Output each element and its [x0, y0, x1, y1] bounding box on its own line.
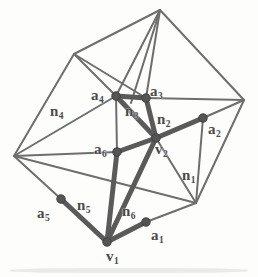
vertex-dot-a5: [57, 195, 65, 203]
mesh-edge: [74, 10, 160, 54]
vertex-dot-v1: [103, 238, 111, 246]
label-subscript: 4: [59, 111, 64, 121]
label-subscript: 3: [158, 91, 163, 101]
label-base: n: [125, 103, 133, 119]
normal-label-n4: n4: [50, 104, 63, 119]
vertex-label-a5: a5: [37, 206, 49, 221]
vertex-dot-a6: [113, 148, 121, 156]
label-base: n: [157, 111, 165, 127]
label-base: a: [208, 121, 216, 137]
label-subscript: 5: [45, 213, 50, 223]
mesh-edge: [14, 156, 196, 203]
vertex-label-v2: v2: [155, 142, 167, 157]
label-base: v: [106, 248, 114, 264]
vertex-label-a1: a1: [151, 228, 163, 243]
vertex-label-a2: a2: [208, 122, 220, 137]
label-base: n: [182, 167, 190, 183]
normal-label-n3: n3: [125, 104, 138, 119]
label-base: a: [37, 205, 45, 221]
label-subscript: 5: [86, 205, 91, 215]
label-subscript: 2: [216, 129, 221, 139]
label-base: n: [50, 103, 58, 119]
vertex-label-a3: a3: [150, 84, 162, 99]
vertex-dot-a4: [112, 92, 120, 100]
label-subscript: 3: [134, 111, 139, 121]
scan-artifact: [10, 268, 248, 273]
label-subscript: 2: [166, 119, 171, 129]
label-base: a: [94, 141, 102, 157]
mesh-edge: [160, 10, 244, 100]
label-base: n: [77, 197, 85, 213]
vertex-dot-a3: [142, 94, 150, 102]
mesh-edge: [14, 54, 74, 156]
vertex-label-v1: v1: [106, 249, 118, 264]
vertex-label-a6: a6: [94, 142, 106, 157]
normal-label-n2: n2: [157, 112, 170, 127]
label-base: a: [151, 227, 159, 243]
label-subscript: 1: [191, 175, 196, 185]
vertex-dot-a1: [142, 218, 150, 226]
normal-label-n6: n6: [122, 204, 135, 219]
vertex-dot-a2: [199, 114, 207, 122]
label-base: a: [150, 83, 158, 99]
label-subscript: 2: [163, 149, 168, 159]
label-base: n: [122, 203, 130, 219]
geometry-figure: v1v2a1a2a3a4a5a6 n1n2n3n4n5n6: [0, 0, 258, 277]
label-subscript: 1: [114, 256, 119, 266]
normal-label-n5: n5: [77, 198, 90, 213]
label-subscript: 6: [131, 211, 136, 221]
mesh-edge: [116, 96, 117, 152]
vertex-label-a4: a4: [91, 88, 103, 103]
label-subscript: 6: [102, 149, 107, 159]
label-subscript: 4: [99, 95, 104, 105]
label-base: v: [155, 141, 163, 157]
label-base: a: [91, 87, 99, 103]
label-subscript: 1: [159, 235, 164, 245]
mesh-edge: [146, 203, 196, 222]
normal-label-n1: n1: [182, 168, 195, 183]
